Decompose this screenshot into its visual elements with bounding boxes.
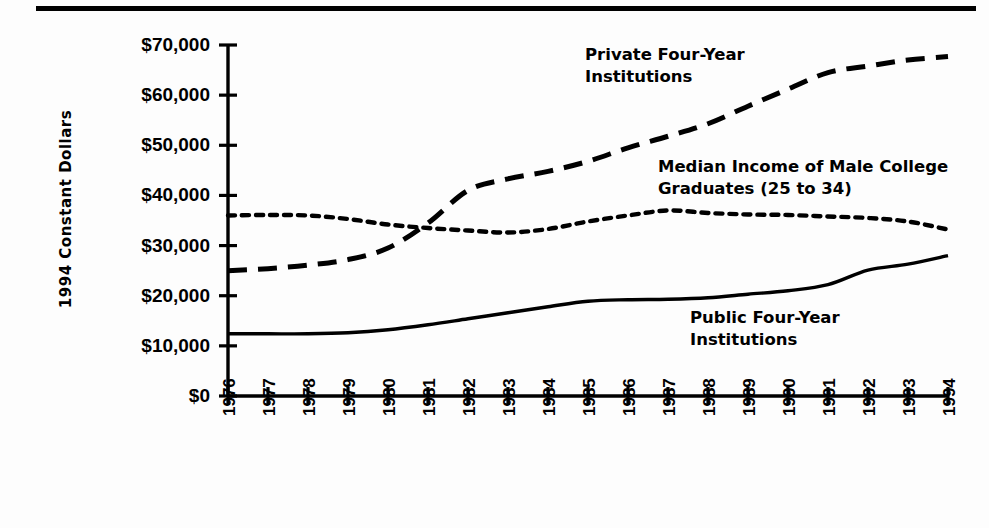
series-line-median-income [228,210,948,232]
series-label-private-four-year: Private Four-Year Institutions [585,44,745,88]
series-label-median-income: Median Income of Male College Graduates … [658,156,948,200]
series-label-public-four-year: Public Four-Year Institutions [690,307,840,351]
chart-figure: 1994 Constant Dollars $0$10,000$20,000$3… [0,0,989,528]
series-line-public-four-year [228,256,948,334]
plot-area [0,0,989,528]
